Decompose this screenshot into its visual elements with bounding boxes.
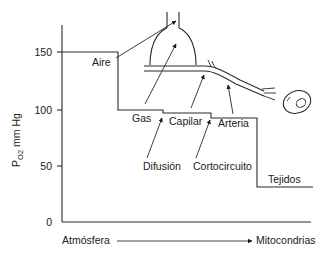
- label-gas: Gas: [132, 112, 151, 124]
- label-cortocircuito: Cortocircuito: [193, 160, 252, 172]
- y-label-unit: mm Hg: [10, 113, 22, 150]
- cell-icon: [280, 87, 314, 117]
- po2-cascade-diagram: 150 100 50 0 PO2 mm Hg Aire Ga: [0, 0, 325, 254]
- y-tick-label-100: 100: [34, 104, 52, 116]
- arrow-gas: [145, 44, 176, 104]
- alveolus-icon: [144, 12, 276, 100]
- y-tick-label-50: 50: [40, 160, 52, 172]
- y-axis-label: PO2 mm Hg: [10, 113, 25, 167]
- y-label-p: P: [10, 160, 22, 167]
- label-mitocondrias: Mitocondrias: [256, 234, 316, 246]
- label-tejidos: Tejidos: [268, 173, 301, 185]
- label-aire: Aire: [92, 56, 111, 68]
- arrow-aire: [116, 21, 176, 58]
- label-capilar: Capilar: [169, 115, 203, 127]
- svg-text:PO2 mm Hg: PO2 mm Hg: [10, 113, 25, 167]
- arrow-capilar: [191, 75, 204, 108]
- y-tick-label-150: 150: [34, 46, 52, 58]
- label-arteria: Arteria: [218, 117, 249, 129]
- arrow-arteria: [228, 85, 233, 114]
- arrow-difusion: [147, 118, 162, 158]
- y-tick-label-0: 0: [46, 216, 52, 228]
- label-difusion: Difusión: [143, 160, 181, 172]
- y-label-subscript: O2: [16, 150, 25, 160]
- label-atmosfera: Atmósfera: [62, 234, 110, 246]
